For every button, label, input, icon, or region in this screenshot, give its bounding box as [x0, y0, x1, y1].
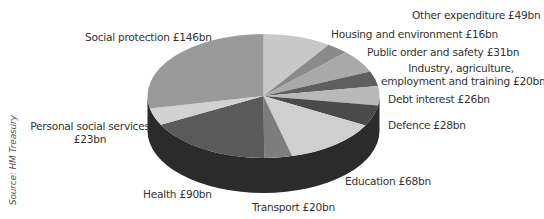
label-transport: Transport £20bn: [252, 201, 335, 214]
label-debt-interest: Debt interest £26bn: [388, 93, 490, 106]
label-personal-social-services: Personal social services £23bn: [30, 120, 150, 145]
label-other-expenditure: Other expenditure £49bn: [412, 9, 540, 22]
pie-slice-social-protection: [147, 34, 263, 109]
label-health: Health £90bn: [143, 188, 212, 201]
label-industry-line1: Industry, agriculture,: [381, 62, 541, 75]
label-defence: Defence £28bn: [388, 119, 466, 132]
label-industry: Industry, agriculture, employment and tr…: [381, 62, 541, 87]
label-public-order: Public order and safety £31bn: [367, 46, 519, 59]
label-social-protection: Social protection £146bn: [85, 31, 212, 44]
label-education: Education £68bn: [345, 175, 431, 188]
label-housing: Housing and environment £16bn: [331, 28, 498, 41]
label-industry-line2: employment and training £20bn: [381, 75, 541, 88]
label-pss-line2: £23bn: [30, 133, 150, 146]
pie-top: [147, 34, 379, 158]
label-pss-line1: Personal social services: [30, 120, 150, 133]
source-note: Source: HM Treasury: [8, 115, 18, 205]
